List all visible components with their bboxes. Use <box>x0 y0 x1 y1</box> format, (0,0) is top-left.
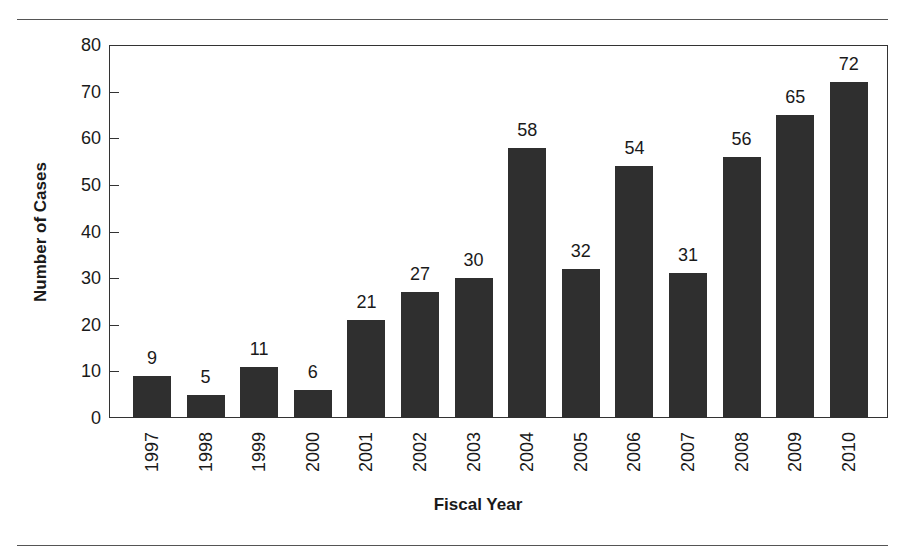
bar-1998 <box>187 395 225 418</box>
bar-2005 <box>562 269 600 418</box>
x-tick-label: 2000 <box>304 432 322 472</box>
bar-value-label: 31 <box>658 246 718 264</box>
bar-1997 <box>133 376 171 418</box>
x-tick-label: 2006 <box>625 432 643 472</box>
bar-value-label: 58 <box>497 121 557 139</box>
bar-2001 <box>347 320 385 418</box>
bar-value-label: 5 <box>176 368 236 386</box>
bar-2003 <box>455 278 493 418</box>
y-tick-label: 30 <box>61 269 101 287</box>
x-tick-label: 2005 <box>572 432 590 472</box>
bar-value-label: 11 <box>229 340 289 358</box>
y-tick-mark <box>110 138 119 139</box>
bar-2008 <box>723 157 761 418</box>
bar-2007 <box>669 273 707 418</box>
y-tick-label: 80 <box>61 36 101 54</box>
y-tick-mark <box>110 278 119 279</box>
x-tick-label: 2001 <box>357 432 375 472</box>
bottom-rule <box>17 545 888 546</box>
y-tick-mark <box>110 232 119 233</box>
y-tick-label: 60 <box>61 129 101 147</box>
bar-value-label: 9 <box>122 349 182 367</box>
y-tick-label: 20 <box>61 316 101 334</box>
x-tick-label: 2009 <box>786 432 804 472</box>
bar-2010 <box>830 82 868 418</box>
bar-value-label: 27 <box>390 265 450 283</box>
y-tick-label: 70 <box>61 83 101 101</box>
bar-2009 <box>776 115 814 418</box>
x-tick-label: 2002 <box>411 432 429 472</box>
x-tick-label: 1999 <box>250 432 268 472</box>
x-tick-label: 2008 <box>733 432 751 472</box>
bar-value-label: 56 <box>712 130 772 148</box>
x-tick-label: 2003 <box>465 432 483 472</box>
x-tick-label: 2007 <box>679 432 697 472</box>
x-tick-label: 1998 <box>197 432 215 472</box>
bar-value-label: 72 <box>819 55 879 73</box>
y-tick-label: 10 <box>61 362 101 380</box>
bar-value-label: 6 <box>283 363 343 381</box>
bar-2002 <box>401 292 439 418</box>
top-rule <box>17 19 888 20</box>
bar-2006 <box>615 166 653 418</box>
y-tick-label: 40 <box>61 223 101 241</box>
bar-value-label: 65 <box>765 88 825 106</box>
bar-value-label: 54 <box>604 139 664 157</box>
x-tick-label: 2010 <box>840 432 858 472</box>
bar-1999 <box>240 367 278 418</box>
x-tick-label: 1997 <box>143 432 161 472</box>
x-tick-label: 2004 <box>518 432 536 472</box>
x-axis-label: Fiscal Year <box>0 495 921 515</box>
bar-value-label: 30 <box>444 251 504 269</box>
y-tick-label: 0 <box>61 409 101 427</box>
y-tick-label: 50 <box>61 176 101 194</box>
bar-2000 <box>294 390 332 418</box>
bar-2004 <box>508 148 546 418</box>
y-tick-mark <box>110 185 119 186</box>
bar-value-label: 32 <box>551 242 611 260</box>
y-tick-mark <box>110 92 119 93</box>
y-tick-mark <box>110 325 119 326</box>
bar-value-label: 21 <box>336 293 396 311</box>
y-tick-mark <box>110 371 119 372</box>
y-axis-label: Number of Cases <box>31 162 51 302</box>
